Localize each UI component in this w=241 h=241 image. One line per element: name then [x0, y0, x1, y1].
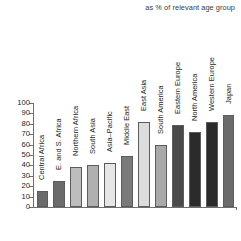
- bar[interactable]: [155, 145, 167, 207]
- chart-subtitle: as % of relevant age group: [145, 3, 235, 12]
- bar[interactable]: [223, 115, 235, 207]
- y-tick-label: 20: [22, 181, 30, 190]
- bar-group: Eastern Europe: [172, 103, 184, 207]
- bar[interactable]: [121, 156, 133, 207]
- bar[interactable]: [206, 122, 218, 207]
- bar-series: Central AfricaE. and S. AfricaNorthern A…: [34, 103, 237, 207]
- bar-category-label: Middle East: [123, 106, 131, 145]
- bar-category-label: Japan: [225, 84, 233, 104]
- bar-category-label: Western Europe: [208, 57, 216, 111]
- bar-group: Central Africa: [37, 103, 49, 207]
- bar-category-label: Asia–Pacific: [106, 111, 114, 152]
- bar-group: Middle East: [121, 103, 133, 207]
- bar[interactable]: [172, 125, 184, 207]
- bar[interactable]: [189, 132, 201, 207]
- bar[interactable]: [138, 122, 150, 207]
- bar-group: Asia–Pacific: [104, 103, 116, 207]
- x-axis-end-tick: [236, 207, 237, 210]
- bar-group: E. and S. Africa: [53, 103, 65, 207]
- y-tick-label: 70: [22, 129, 30, 138]
- bar[interactable]: [104, 163, 116, 207]
- y-tick-label: 60: [22, 140, 30, 149]
- bar-group: North America: [189, 103, 201, 207]
- bar-category-label: South Asia: [89, 119, 97, 155]
- bar-category-label: Northern Africa: [72, 106, 80, 156]
- bar-group: Japan: [223, 103, 235, 207]
- y-tick-label: 90: [22, 108, 30, 117]
- y-tick-label: 50: [22, 150, 30, 159]
- bar-group: South Asia: [87, 103, 99, 207]
- bar-category-label: Central Africa: [38, 135, 46, 180]
- bar[interactable]: [53, 181, 65, 207]
- y-tick-label: 0: [26, 202, 30, 211]
- bar-category-label: East Asia: [140, 79, 148, 110]
- y-tick-label: 30: [22, 171, 30, 180]
- bar[interactable]: [37, 191, 49, 207]
- bar-category-label: South America: [157, 85, 165, 134]
- bar[interactable]: [87, 165, 99, 207]
- y-tick-label: 10: [22, 192, 30, 201]
- plot-area: 0102030405060708090100 Central AfricaE. …: [33, 103, 237, 207]
- bar-category-label: E. and S. Africa: [55, 118, 63, 170]
- bar-category-label: Eastern Europe: [174, 62, 182, 114]
- bar-group: Northern Africa: [70, 103, 82, 207]
- y-tick-label: 100: [17, 98, 30, 107]
- y-tick-label: 40: [22, 160, 30, 169]
- bar-group: Western Europe: [206, 103, 218, 207]
- bar[interactable]: [70, 167, 82, 207]
- x-axis-line: [33, 207, 237, 208]
- bar-group: South America: [155, 103, 167, 207]
- y-tick-label: 80: [22, 119, 30, 128]
- bar-category-label: North America: [191, 74, 199, 121]
- bar-group: East Asia: [138, 103, 150, 207]
- bar-chart-figure: as % of relevant age group 0102030405060…: [0, 0, 241, 241]
